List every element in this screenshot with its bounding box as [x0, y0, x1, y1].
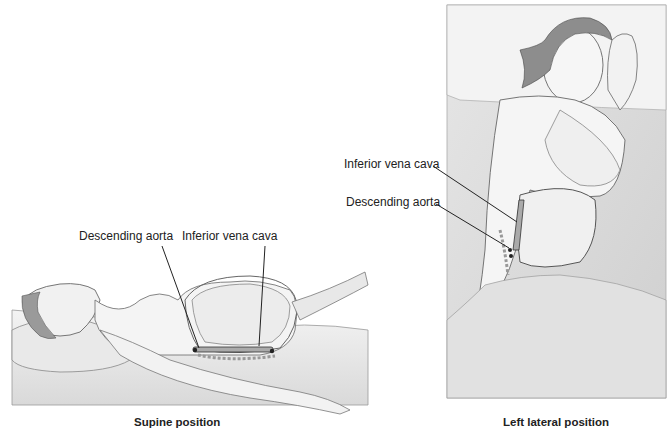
lateral-caption: Left lateral position	[503, 416, 609, 428]
supine-caption: Supine position	[134, 416, 220, 428]
supine-label-descending-aorta: Descending aorta	[79, 229, 173, 243]
lateral-panel: Inferior vena cava Descending aorta Left…	[330, 0, 671, 430]
lateral-label-descending-aorta: Descending aorta	[346, 195, 440, 209]
lateral-label-inferior-vena-cava: Inferior vena cava	[344, 157, 439, 171]
supine-label-inferior-vena-cava: Inferior vena cava	[182, 229, 277, 243]
